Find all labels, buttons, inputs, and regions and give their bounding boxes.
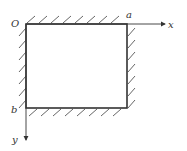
bottom-edge-hatching xyxy=(29,109,121,116)
plate-rectangle xyxy=(26,24,127,108)
left-edge-hatching xyxy=(19,28,26,108)
origin-label: O xyxy=(11,18,19,29)
corner-b-label: b xyxy=(11,104,17,115)
right-edge-hatching xyxy=(128,28,135,108)
top-edge-hatching xyxy=(27,16,119,23)
y-axis-label: y xyxy=(11,134,18,145)
x-axis-label: x xyxy=(168,19,174,30)
corner-a-label: a xyxy=(126,9,132,20)
plate-diagram: O a x b y xyxy=(0,0,187,151)
